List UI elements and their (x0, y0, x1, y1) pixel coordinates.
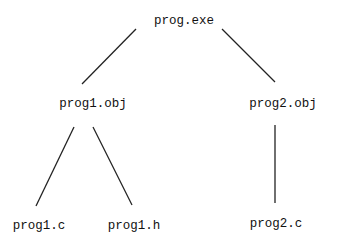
node-prog1-obj: prog1.obj (59, 97, 127, 111)
node-prog-exe: prog.exe (154, 14, 214, 28)
edge-obj1-h1 (93, 127, 132, 205)
node-prog2-c: prog2.c (250, 217, 303, 231)
edge-root-obj1 (82, 29, 136, 84)
node-prog2-obj: prog2.obj (249, 97, 317, 111)
tree-edges (0, 0, 339, 246)
edge-root-obj2 (222, 29, 275, 82)
node-prog1-h: prog1.h (108, 219, 161, 233)
edge-obj1-c1 (36, 127, 74, 206)
node-prog1-c: prog1.c (13, 219, 66, 233)
dependency-tree-diagram: prog.exe prog1.obj prog2.obj prog1.c pro… (0, 0, 339, 246)
